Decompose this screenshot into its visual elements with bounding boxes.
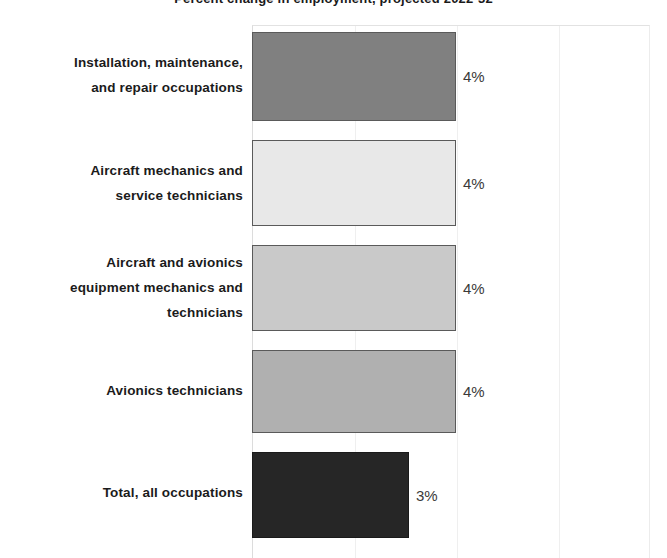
category-label-line: equipment mechanics and (0, 275, 243, 300)
category-label: Avionics technicians (0, 378, 243, 403)
category-label-line: technicians (0, 300, 243, 325)
bar-avionics-technicians[interactable] (252, 350, 456, 433)
category-label: Aircraft mechanics and service technicia… (0, 158, 243, 208)
bar-total-all-occupations[interactable] (252, 452, 409, 538)
category-label-line: Aircraft and avionics (0, 250, 243, 275)
category-label-line: Installation, maintenance, (0, 50, 243, 75)
bar-value-label: 4% (463, 384, 485, 399)
bar-value-label: 3% (416, 488, 438, 503)
chart-title: Percent change in employment, projected … (0, 0, 667, 6)
gridline-2 (457, 26, 458, 558)
category-label: Total, all occupations (0, 480, 243, 505)
bar-installation-maintenance-repair[interactable] (252, 32, 456, 121)
category-label: Aircraft and avionics equipment mechanic… (0, 250, 243, 325)
bar-value-label: 4% (463, 69, 485, 84)
bar-value-label: 4% (463, 281, 485, 296)
bar-chart: Percent change in employment, projected … (0, 0, 667, 558)
category-label-line: Aircraft mechanics and (0, 158, 243, 183)
category-label: Installation, maintenance, and repair oc… (0, 50, 243, 100)
bar-value-label: 4% (463, 176, 485, 191)
category-label-line: Avionics technicians (0, 378, 243, 403)
category-label-line: service technicians (0, 183, 243, 208)
bar-aircraft-mechanics-service-technicians[interactable] (252, 140, 456, 226)
category-label-line: and repair occupations (0, 75, 243, 100)
gridline-3 (559, 26, 560, 558)
category-label-line: Total, all occupations (0, 480, 243, 505)
bar-aircraft-avionics-equipment-mechanics-technicians[interactable] (252, 245, 456, 331)
